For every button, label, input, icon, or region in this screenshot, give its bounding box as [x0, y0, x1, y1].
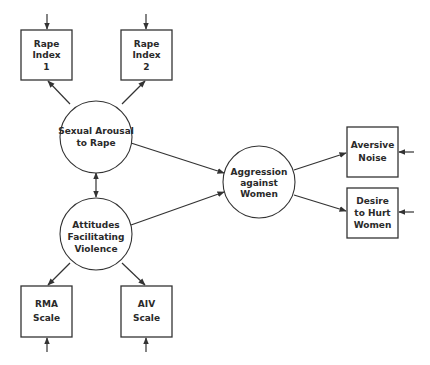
label-line: Index	[132, 50, 160, 60]
label-line: to Rape	[76, 138, 115, 148]
label-line: Women	[240, 189, 278, 199]
edge-arousal-aggression	[131, 143, 224, 173]
edge-attitudes-aiv	[122, 263, 145, 285]
label-line: Sexual Arousal	[58, 126, 134, 136]
observed-rma: RMA Scale	[21, 286, 72, 337]
observed-rape1: Rape Index 1	[21, 30, 72, 80]
label-line: Index	[32, 50, 60, 60]
observed-aiv: AIV Scale	[121, 286, 172, 337]
edge-arousal-rape1	[48, 81, 70, 104]
edge-attitudes-aggression	[131, 192, 224, 225]
label-line: Desire	[356, 196, 389, 206]
edge-aggression-noise	[294, 153, 346, 170]
latent-attitudes: Attitudes Facilitating Violence	[60, 198, 132, 270]
box-rma-scale	[21, 286, 72, 337]
label-line: Aggression	[231, 167, 288, 177]
label-line: 2	[143, 62, 149, 72]
label-line: Rape	[134, 39, 160, 49]
label-line: RMA	[35, 299, 58, 309]
observed-rape2: Rape Index 2	[121, 30, 172, 80]
label-line: Scale	[33, 313, 60, 323]
label-line: Attitudes	[72, 220, 119, 230]
observed-noise: Aversive Noise	[347, 127, 398, 177]
path-diagram: Rape Index 1 Rape Index 2 RMA Scale AIV …	[0, 0, 430, 365]
label-line: against	[240, 178, 278, 188]
label-line: AIV	[138, 299, 155, 309]
edge-attitudes-rma	[48, 263, 70, 285]
label-line: Aversive	[351, 140, 394, 150]
label-line: Scale	[133, 313, 160, 323]
latent-arousal: Sexual Arousal to Rape	[58, 101, 134, 173]
box-aiv-scale	[121, 286, 172, 337]
edge-arousal-rape2	[122, 81, 145, 104]
label-line: Women	[354, 220, 392, 230]
observed-hurt: Desire to Hurt Women	[347, 188, 398, 238]
label-line: to Hurt	[354, 208, 391, 218]
label-line: Rape	[34, 39, 60, 49]
latent-aggression: Aggression against Women	[223, 146, 295, 218]
edge-aggression-hurt	[294, 195, 346, 211]
label-line: Noise	[358, 153, 386, 163]
label-line: Violence	[74, 244, 117, 254]
box-aversive-noise	[347, 127, 398, 177]
label-line: Facilitating	[68, 232, 125, 242]
circle-sexual-arousal-to-rape	[60, 101, 132, 173]
label-line: 1	[43, 62, 49, 72]
